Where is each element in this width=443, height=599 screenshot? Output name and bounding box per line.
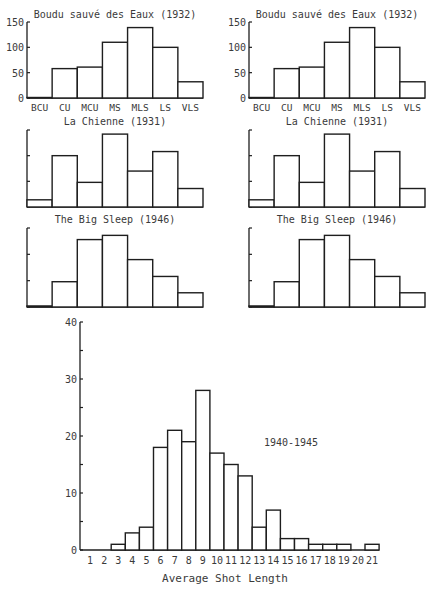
bar (249, 306, 274, 307)
bar (52, 156, 77, 207)
bar (196, 390, 210, 550)
y-tick-label: 40 (65, 317, 77, 328)
bar (400, 189, 425, 207)
x-tick-label: VLS (404, 102, 421, 112)
x-axis-label: Average Shot Length (162, 572, 288, 585)
bar (128, 28, 153, 98)
y-tick-label: 0 (71, 545, 77, 556)
bar (52, 69, 77, 98)
x-tick-label: 10 (211, 555, 223, 566)
bar (27, 97, 52, 98)
x-tick-label: 17 (310, 555, 322, 566)
bar (178, 293, 203, 307)
x-tick-label: 7 (172, 555, 178, 566)
bar (52, 282, 77, 307)
x-tick-label: MLS (354, 102, 371, 112)
bar (125, 533, 139, 550)
bar (295, 539, 309, 550)
bar (252, 527, 266, 550)
x-tick-label: MS (331, 102, 343, 112)
x-tick-label: 20 (352, 555, 364, 566)
bar (153, 152, 178, 207)
x-tick-label: BCU (31, 102, 48, 112)
bar (365, 544, 379, 550)
bar (350, 171, 375, 207)
chart-title: Boudu sauvé des Eaux (1932) (256, 9, 419, 20)
bar (249, 200, 274, 207)
bar (77, 240, 102, 307)
small-chart-boudu-left: Boudu sauvé des Eaux (1932)050100150BCUC… (0, 0, 220, 112)
small-chart-big-sleep-right: The Big Sleep (1946) (222, 210, 443, 310)
small-chart-big-sleep-left: The Big Sleep (1946) (0, 210, 220, 310)
bar (324, 134, 349, 207)
x-tick-label: 14 (267, 555, 279, 566)
small-chart-la-chienne-right: La Chienne (1931) (222, 112, 443, 210)
bar (299, 240, 324, 307)
bar (102, 42, 127, 98)
bar (350, 260, 375, 307)
x-tick-label: 9 (200, 555, 206, 566)
chart-title: Boudu sauvé des Eaux (1932) (34, 9, 197, 20)
y-tick-label: 30 (65, 374, 77, 385)
bar (400, 82, 425, 98)
histogram-1940-1945: 0102030401234567891011121314151617181920… (0, 310, 443, 599)
bar (324, 235, 349, 307)
bar (210, 453, 224, 550)
bar (280, 539, 294, 550)
x-tick-label: 12 (239, 555, 251, 566)
small-chart-la-chienne-left: La Chienne (1931) (0, 112, 220, 210)
bar (299, 182, 324, 207)
x-tick-label: CU (59, 102, 71, 112)
x-tick-label: BCU (253, 102, 270, 112)
bar (102, 235, 127, 307)
x-tick-label: MCU (81, 102, 98, 112)
x-tick-label: 6 (158, 555, 164, 566)
x-tick-label: MCU (303, 102, 320, 112)
bar (400, 293, 425, 307)
bar (27, 200, 52, 207)
y-tick-label: 50 (234, 68, 246, 79)
x-tick-label: MS (109, 102, 121, 112)
bar (249, 97, 274, 98)
x-tick-label: 18 (324, 555, 336, 566)
y-tick-label: 20 (65, 431, 77, 442)
y-tick-label: 150 (6, 17, 24, 28)
x-tick-label: VLS (182, 102, 199, 112)
x-tick-label: 21 (366, 555, 378, 566)
x-tick-label: 16 (296, 555, 308, 566)
y-tick-label: 100 (6, 42, 24, 53)
x-tick-label: 3 (115, 555, 121, 566)
bar (323, 544, 337, 550)
y-tick-label: 100 (228, 42, 246, 53)
bar (153, 47, 178, 98)
y-tick-label: 10 (65, 488, 77, 499)
x-tick-label: 5 (143, 555, 149, 566)
x-tick-label: 8 (186, 555, 192, 566)
x-tick-label: 4 (129, 555, 135, 566)
bar (178, 82, 203, 98)
y-tick-label: 0 (240, 93, 246, 104)
x-tick-label: 15 (281, 555, 293, 566)
bar (375, 47, 400, 98)
x-tick-label: 1 (87, 555, 93, 566)
bar (77, 182, 102, 207)
bar (224, 465, 238, 551)
chart-title: The Big Sleep (1946) (277, 214, 397, 225)
bar (168, 430, 182, 550)
bar (350, 28, 375, 98)
bar (375, 152, 400, 207)
bar (102, 134, 127, 207)
chart-title: La Chienne (1931) (64, 116, 166, 127)
bar (238, 476, 252, 550)
bar (337, 544, 351, 550)
y-tick-label: 0 (18, 93, 24, 104)
bar (27, 306, 52, 307)
y-tick-label: 150 (228, 17, 246, 28)
bar (128, 260, 153, 307)
bar (324, 42, 349, 98)
chart-title: The Big Sleep (1946) (55, 214, 175, 225)
bar (153, 276, 178, 307)
bar (274, 282, 299, 307)
x-tick-label: 19 (338, 555, 350, 566)
x-tick-label: CU (281, 102, 293, 112)
